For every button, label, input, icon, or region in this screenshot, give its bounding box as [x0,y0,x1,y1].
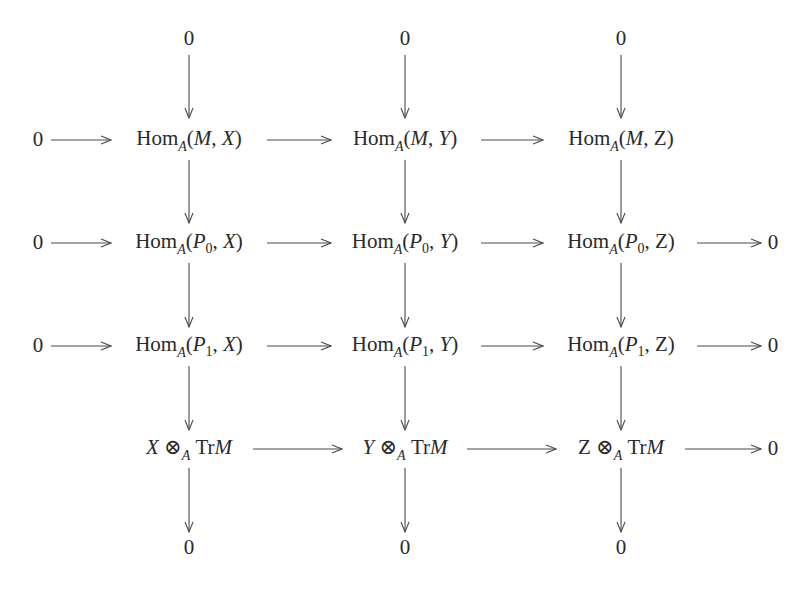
hom-label: Hom [352,229,394,253]
ring-subscript: A [609,242,618,257]
hom-label: Hom [352,332,394,356]
hom-label: Hom [135,332,177,356]
module-m: M [215,435,233,459]
transpose-label: Tr [411,435,430,459]
hom-label: Hom [136,126,178,150]
zero-left-r2: 0 [33,230,44,254]
node-hom-p0-y: HomA(P0, Y) [352,229,459,256]
paren-close: ) [236,332,243,356]
paren-open: ( [619,126,626,150]
paren-close: ) [236,229,243,253]
paren-open: ( [186,229,193,253]
comma: , [211,126,222,150]
hom-label: Hom [135,229,177,253]
projective-p: P [625,332,638,356]
node-hom-p1-z: HomA(P1, Z) [567,332,675,359]
node-hom-m-x: HomA(M, X) [136,126,241,153]
zero-right-r3: 0 [768,333,779,357]
commutative-diagram: 0 0 0 0 0 0 0 0 0 HomA(M, X) HomA(M, Y) … [0,0,806,589]
zero-bottom-z: 0 [616,535,627,559]
projective-p: P [409,229,422,253]
node-tensor-z: Z ⊗A TrM [578,435,664,462]
tensor-symbol: ⊗ [164,435,182,459]
comma: , [645,229,656,253]
zero-left-r1: 0 [33,127,44,151]
var-y: Y [363,435,375,459]
ring-subscript: A [177,242,186,257]
var-y: Y [438,126,450,150]
comma: , [428,126,439,150]
node-tensor-y: Y ⊗A TrM [363,435,448,462]
arrows-layer [0,0,806,589]
var-z: Z [655,229,668,253]
p-subscript: 1 [206,344,213,359]
p-subscript: 0 [638,241,645,256]
transpose-label: Tr [195,435,214,459]
transpose-label: Tr [627,435,646,459]
ring-subscript: A [178,139,187,154]
ring-subscript: A [397,448,406,463]
projective-p: P [193,332,206,356]
node-hom-p1-x: HomA(P1, X) [135,332,243,359]
comma: , [213,332,224,356]
var-y: Y [440,332,452,356]
ring-subscript: A [614,448,623,463]
ring-subscript: A [610,139,619,154]
hom-label: Hom [567,332,609,356]
node-hom-p0-z: HomA(P0, Z) [567,229,675,256]
var-y: Y [440,229,452,253]
node-hom-p1-y: HomA(P1, Y) [352,332,459,359]
paren-close: ) [235,126,242,150]
zero-top-x: 0 [184,26,195,50]
var-z: Z [655,332,668,356]
paren-close: ) [451,332,458,356]
ring-subscript: A [395,139,404,154]
node-tensor-x: X ⊗A TrM [146,435,232,462]
tensor-symbol: ⊗ [379,435,397,459]
node-hom-m-y: HomA(M, Y) [353,126,457,153]
paren-open: ( [402,332,409,356]
module-m: M [194,126,212,150]
p-subscript: 0 [206,241,213,256]
module-m: M [626,126,644,150]
node-hom-p0-x: HomA(P0, X) [135,229,243,256]
p-subscript: 0 [422,241,429,256]
module-m: M [430,435,448,459]
tensor-symbol: ⊗ [596,435,614,459]
var-x: X [223,229,236,253]
hom-label: Hom [567,229,609,253]
comma: , [643,126,654,150]
paren-close: ) [668,332,675,356]
zero-top-y: 0 [400,26,411,50]
zero-bottom-x: 0 [184,535,195,559]
paren-close: ) [451,229,458,253]
ring-subscript: A [177,345,186,360]
var-x: X [222,126,235,150]
zero-bottom-y: 0 [400,535,411,559]
ring-subscript: A [394,242,403,257]
p-subscript: 1 [638,344,645,359]
paren-open: ( [403,126,410,150]
zero-right-r2: 0 [768,230,779,254]
var-x: X [223,332,236,356]
paren-open: ( [618,332,625,356]
paren-open: ( [402,229,409,253]
projective-p: P [409,332,422,356]
zero-top-z: 0 [616,26,627,50]
var-z: Z [654,126,667,150]
p-subscript: 1 [422,344,429,359]
paren-close: ) [668,229,675,253]
zero-left-r3: 0 [33,333,44,357]
comma: , [429,229,440,253]
paren-open: ( [618,229,625,253]
hom-label: Hom [353,126,395,150]
ring-subscript: A [182,448,191,463]
ring-subscript: A [394,345,403,360]
comma: , [645,332,656,356]
hom-label: Hom [568,126,610,150]
paren-close: ) [450,126,457,150]
paren-close: ) [667,126,674,150]
module-m: M [647,435,665,459]
paren-open: ( [187,126,194,150]
comma: , [213,229,224,253]
